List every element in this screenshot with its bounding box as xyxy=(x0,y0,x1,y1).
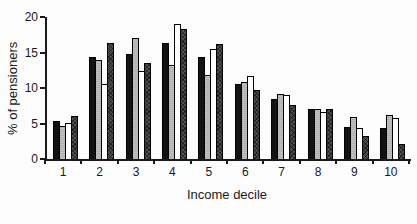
x-tick-mark xyxy=(372,159,374,164)
x-tick-label-10: 10 xyxy=(373,165,409,179)
bar-dark-hatched-decile-9 xyxy=(362,136,369,159)
y-tick-label-20: 20 xyxy=(12,11,38,23)
x-axis-title: Income decile xyxy=(45,187,409,202)
x-tick-mark xyxy=(44,159,46,164)
y-tick-label-5: 5 xyxy=(12,118,38,130)
y-tick-label-10: 10 xyxy=(12,82,38,94)
bar-group-decile-7 xyxy=(265,17,301,159)
plot-area xyxy=(45,17,411,161)
x-tick-mark xyxy=(80,159,82,164)
bar-dark-hatched-decile-4 xyxy=(180,29,187,159)
x-tick-label-1: 1 xyxy=(45,165,81,179)
bar-dark-hatched-decile-10 xyxy=(398,144,405,159)
x-tick-label-7: 7 xyxy=(263,165,299,179)
x-tick-label-9: 9 xyxy=(336,165,372,179)
bar-group-decile-2 xyxy=(83,17,119,159)
bar-group-decile-1 xyxy=(47,17,83,159)
x-tick-label-6: 6 xyxy=(227,165,263,179)
bar-dark-hatched-decile-6 xyxy=(253,90,260,159)
x-tick-label-8: 8 xyxy=(300,165,336,179)
x-tick-label-4: 4 xyxy=(154,165,190,179)
x-tick-mark xyxy=(262,159,264,164)
x-tick-mark xyxy=(117,159,119,164)
x-tick-mark xyxy=(190,159,192,164)
x-tick-mark xyxy=(226,159,228,164)
bar-dark-hatched-decile-8 xyxy=(326,109,333,159)
y-tick-label-0: 0 xyxy=(12,153,38,165)
bar-dark-hatched-decile-1 xyxy=(71,116,78,159)
x-tick-mark xyxy=(408,159,410,164)
bar-group-decile-8 xyxy=(302,17,338,159)
bar-group-decile-9 xyxy=(338,17,374,159)
bar-group-decile-10 xyxy=(375,17,411,159)
bar-dark-hatched-decile-3 xyxy=(144,63,151,159)
x-tick-mark xyxy=(335,159,337,164)
bar-dark-hatched-decile-2 xyxy=(107,43,114,159)
x-tick-mark xyxy=(153,159,155,164)
x-axis-labels: 12345678910 xyxy=(45,165,409,179)
x-tick-mark xyxy=(299,159,301,164)
bar-groups xyxy=(47,17,411,159)
bar-group-decile-6 xyxy=(229,17,265,159)
x-tick-label-2: 2 xyxy=(81,165,117,179)
y-tick-label-15: 15 xyxy=(12,47,38,59)
bar-group-decile-5 xyxy=(193,17,229,159)
x-tick-label-5: 5 xyxy=(191,165,227,179)
bar-group-decile-3 xyxy=(120,17,156,159)
bar-group-decile-4 xyxy=(156,17,192,159)
bar-dark-hatched-decile-5 xyxy=(216,44,223,159)
x-tick-label-3: 3 xyxy=(118,165,154,179)
bar-dark-hatched-decile-7 xyxy=(289,105,296,159)
bar-chart-figure: % of pensioners 05101520 12345678910 Inc… xyxy=(0,0,417,224)
